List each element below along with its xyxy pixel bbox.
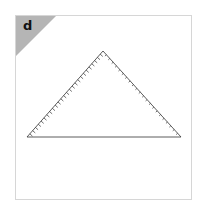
edge-ticks <box>30 54 178 136</box>
triangle-diagram <box>0 0 202 207</box>
right-edge <box>103 51 181 137</box>
